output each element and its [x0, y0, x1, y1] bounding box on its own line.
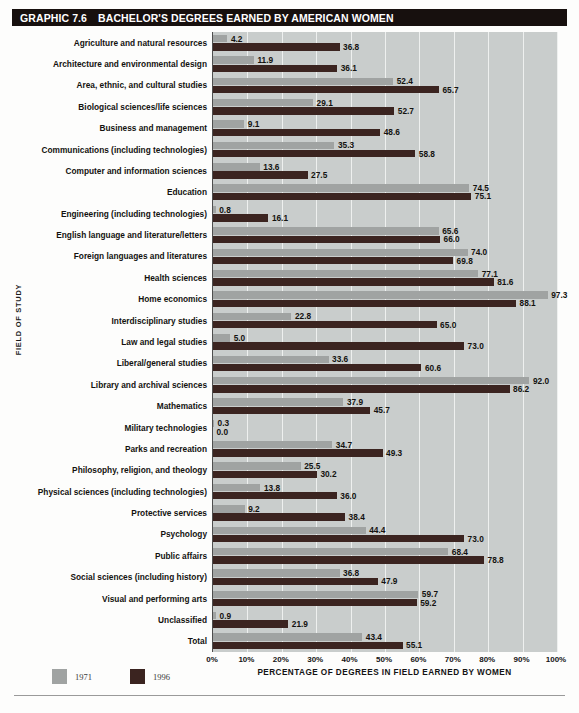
bar-value-label: 34.7 — [336, 441, 352, 449]
x-tick-label: 0% — [206, 655, 218, 664]
bar-value-label: 88.1 — [520, 299, 536, 307]
bar-value-label: 0.8 — [219, 206, 231, 214]
bar-1971 — [213, 441, 332, 448]
bar-1971 — [213, 184, 469, 191]
page-title: BACHELOR'S DEGREES EARNED BY AMERICAN WO… — [98, 12, 394, 24]
bar-1996 — [213, 150, 415, 157]
x-tick-label: 80% — [479, 655, 495, 664]
bar-1996 — [213, 342, 464, 349]
plot-area: 4.236.811.936.152.465.729.152.79.148.635… — [212, 32, 558, 652]
bar-value-label: 65.0 — [440, 321, 456, 329]
bar-1971 — [213, 163, 260, 170]
bar-1996 — [213, 535, 464, 542]
bar-value-label: 97.3 — [551, 291, 567, 299]
bar-1996 — [213, 214, 268, 221]
bar-1971 — [213, 291, 548, 298]
category-label: Physical sciences (including technologie… — [38, 488, 207, 496]
bar-1996 — [213, 578, 378, 585]
bar-1971 — [213, 612, 216, 619]
category-label: Agriculture and natural resources — [74, 39, 207, 47]
bar-1996 — [213, 385, 510, 392]
bar-1971 — [213, 313, 291, 320]
bar-value-label: 65.7 — [443, 86, 459, 94]
bar-1971 — [213, 270, 478, 277]
bar-value-label: 52.4 — [397, 77, 413, 85]
bar-value-label: 45.7 — [374, 406, 390, 414]
bar-value-label: 81.6 — [497, 278, 513, 286]
bar-1971 — [213, 227, 439, 234]
bar-value-label: 92.0 — [533, 377, 549, 385]
category-labels-column: Agriculture and natural resourcesArchite… — [28, 32, 212, 652]
category-label: Engineering (including technologies) — [61, 210, 207, 218]
x-tick-label: 90% — [514, 655, 530, 664]
bar-1971 — [213, 142, 334, 149]
bar-1996 — [213, 129, 380, 136]
bar-value-label: 29.1 — [317, 99, 333, 107]
legend-label: 1971 — [75, 672, 92, 682]
category-label: Communications (including technologies) — [42, 146, 207, 154]
bar-value-label: 49.3 — [386, 449, 402, 457]
bar-value-label: 66.0 — [444, 235, 460, 243]
bar-value-label: 48.6 — [384, 128, 400, 136]
bar-1996 — [213, 556, 484, 563]
legend-item: 1996 — [130, 669, 170, 684]
category-label: Education — [167, 188, 207, 196]
bar-1971 — [213, 505, 245, 512]
bar-value-label: 47.9 — [381, 577, 397, 585]
x-tick-label: 50% — [376, 655, 392, 664]
bar-value-label: 16.1 — [272, 214, 288, 222]
category-label: Law and legal studies — [121, 338, 207, 346]
category-label: Philosophy, religion, and theology — [72, 466, 207, 474]
bar-1996 — [213, 300, 516, 307]
bar-value-label: 5.0 — [234, 334, 246, 342]
bar-value-label: 86.2 — [513, 385, 529, 393]
category-label: Unclassified — [158, 616, 207, 624]
gridline — [557, 32, 558, 652]
bar-1996 — [213, 492, 337, 499]
category-label: Public affairs — [155, 552, 207, 560]
legend-swatch — [52, 669, 67, 684]
bar-1971 — [213, 56, 254, 63]
category-label: Social sciences (including history) — [71, 573, 207, 581]
bar-value-label: 77.1 — [482, 270, 498, 278]
bar-value-label: 30.2 — [320, 470, 336, 478]
category-label: Psychology — [160, 530, 207, 538]
bar-value-label: 27.5 — [311, 171, 327, 179]
graphic-title-bar: GRAPHIC 7.6 BACHELOR'S DEGREES EARNED BY… — [12, 9, 567, 26]
bar-1996 — [213, 599, 417, 606]
bar-1996 — [213, 620, 288, 627]
bar-1996 — [213, 364, 421, 371]
bar-value-label: 73.0 — [468, 342, 484, 350]
bar-value-label: 43.4 — [366, 633, 382, 641]
bar-1996 — [213, 86, 439, 93]
x-tick-label: 10% — [238, 655, 254, 664]
chart-page: GRAPHIC 7.6 BACHELOR'S DEGREES EARNED BY… — [0, 0, 579, 713]
bar-value-label: 58.8 — [419, 150, 435, 158]
bar-value-label: 78.8 — [488, 556, 504, 564]
bar-1971 — [213, 334, 230, 341]
bar-value-label: 36.0 — [340, 492, 356, 500]
bar-value-label: 0.9 — [220, 612, 232, 620]
bar-value-label: 35.3 — [338, 141, 354, 149]
bar-value-label: 22.8 — [295, 312, 311, 320]
legend-label: 1996 — [153, 672, 170, 682]
category-label: Architecture and environmental design — [53, 60, 207, 68]
bar-1971 — [213, 462, 301, 469]
bar-1971 — [213, 527, 366, 534]
bar-value-label: 0.0 — [217, 428, 229, 436]
bar-value-label: 13.6 — [263, 163, 279, 171]
bar-1971 — [213, 569, 340, 576]
category-label: Biological sciences/life sciences — [78, 103, 207, 111]
category-label: Home economics — [138, 295, 207, 303]
bar-1971 — [213, 356, 329, 363]
bar-1971 — [213, 484, 260, 491]
category-label: Parks and recreation — [125, 445, 207, 453]
bar-1996 — [213, 642, 403, 649]
bar-1971 — [213, 548, 448, 555]
category-label: Library and archival sciences — [91, 381, 207, 389]
bar-1996 — [213, 107, 394, 114]
category-label: Foreign languages and literatures — [74, 252, 207, 260]
bar-value-label: 9.2 — [248, 505, 260, 513]
x-axis-ticks: 0%10%20%30%40%50%60%70%80%90%100% — [212, 652, 557, 666]
legend: 19711996 — [52, 669, 170, 684]
